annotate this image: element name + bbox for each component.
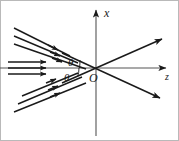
angle-label-incidence: θ <box>68 56 74 68</box>
diagram-canvas: x z O θ θ <box>0 0 179 141</box>
angle-label-reflection: θ <box>64 71 70 83</box>
z-axis-label: z <box>164 71 169 82</box>
x-axis-label: x <box>103 6 110 20</box>
angle-arc-upper <box>80 60 81 68</box>
optics-ray-diagram: x z O θ θ <box>0 0 179 141</box>
origin-label: O <box>89 71 98 85</box>
